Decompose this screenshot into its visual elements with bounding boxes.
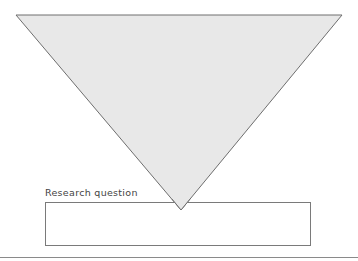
funnel-tip	[172, 199, 190, 210]
diagram-canvas: Research question	[0, 0, 358, 261]
bottom-divider	[0, 257, 358, 258]
funnel-tip-overlay	[0, 0, 358, 261]
research-question-label: Research question	[45, 187, 138, 198]
